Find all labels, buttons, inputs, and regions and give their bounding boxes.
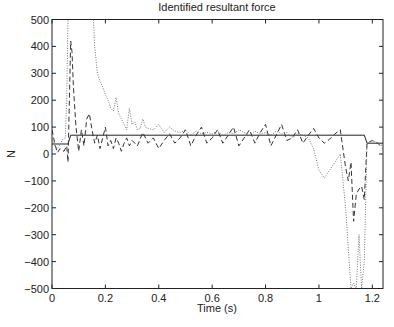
plot-frame: [52, 20, 383, 289]
y-axis-label: N: [5, 150, 17, 158]
y-tick-label: −100: [24, 175, 49, 187]
chart-title: Identified resultant force: [158, 1, 275, 13]
x-axis-label: Time (s): [197, 302, 237, 314]
x-tick-label: 0.4: [151, 292, 166, 304]
y-tick-label: 400: [31, 40, 49, 52]
y-tick-label: 500: [31, 14, 49, 26]
x-axis: 00.20.40.60.811.2: [49, 20, 380, 304]
y-tick-label: −300: [24, 229, 49, 241]
x-tick-label: 0: [49, 292, 55, 304]
x-tick-label: 0.2: [98, 292, 113, 304]
y-tick-label: 0: [43, 148, 49, 160]
x-tick-label: 1.2: [365, 292, 380, 304]
y-tick-label: −500: [24, 283, 49, 295]
x-tick-label: 1: [316, 292, 322, 304]
y-tick-label: −200: [24, 202, 49, 214]
chart: Identified resultant force 5004003002001…: [0, 0, 394, 327]
y-tick-label: 300: [31, 67, 49, 79]
x-tick-label: 0.8: [258, 292, 273, 304]
series-layer: [52, 20, 383, 289]
series-dashed-line: [52, 41, 383, 221]
y-axis: 5004003002001000−100−200−300−400−500: [24, 14, 383, 295]
y-tick-label: 200: [31, 94, 49, 106]
series-dotted-line: [52, 20, 383, 289]
y-tick-label: −400: [24, 256, 49, 268]
y-tick-label: 100: [31, 121, 49, 133]
